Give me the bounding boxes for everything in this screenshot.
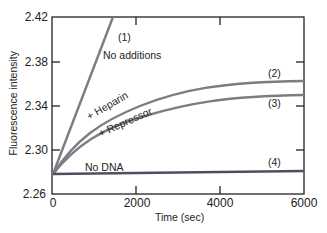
x-ticks-bottom	[136, 186, 220, 194]
x-axis-title: Time (sec)	[155, 212, 204, 223]
x-tick-label: 6000	[291, 197, 318, 209]
chart-figure: 2.42 2.38 2.34 2.30 2.26 0 2000 4000 600…	[0, 0, 327, 233]
y-ticks-right	[296, 62, 304, 150]
y-ticks-left	[52, 62, 60, 150]
marker-2: (2)	[268, 68, 281, 79]
marker-4: (4)	[268, 157, 281, 168]
y-tick-label: 2.26	[6, 188, 46, 200]
marker-1: (1)	[118, 32, 131, 43]
x-tick-label: 0	[50, 197, 57, 209]
x-ticks-top	[136, 17, 220, 25]
label-no-dna: No DNA	[85, 162, 124, 173]
marker-3: (3)	[268, 98, 281, 109]
y-axis-title: Fluorescence intensity	[8, 50, 19, 156]
label-no-additions: No additions	[103, 50, 161, 61]
x-tick-label: 2000	[124, 197, 151, 209]
x-tick-label: 4000	[207, 197, 234, 209]
series-no-additions	[53, 17, 113, 174]
y-tick-label: 2.42	[8, 11, 48, 23]
